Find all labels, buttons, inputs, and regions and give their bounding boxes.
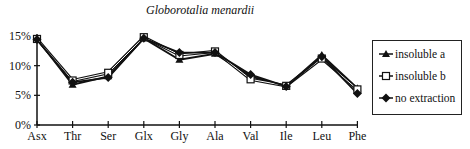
- x-tick-label: Thr: [64, 129, 81, 143]
- series-layer: [33, 34, 362, 98]
- x-tick-label: Leu: [312, 129, 331, 143]
- triangle-filled-icon: [379, 49, 393, 59]
- axes: 0%5%10%15%AsxThrSerGlxGlyAlaValIleLeuPhe: [9, 29, 366, 143]
- y-tick-label: 15%: [9, 29, 31, 43]
- square-open-icon: [379, 71, 393, 81]
- x-tick-label: Glx: [135, 129, 153, 143]
- x-tick-label: Gly: [170, 129, 188, 143]
- legend-item-insoluble-a: insoluble a: [379, 48, 445, 60]
- legend: insoluble a insoluble b no extraction: [372, 40, 462, 115]
- legend-label: no extraction: [395, 92, 455, 104]
- x-tick-label: Asx: [27, 129, 46, 143]
- legend-item-no-extraction: no extraction: [379, 92, 455, 104]
- y-tick-label: 10%: [9, 59, 31, 73]
- y-tick-label: 5%: [15, 88, 31, 102]
- legend-item-insoluble-b: insoluble b: [379, 70, 446, 82]
- legend-label: insoluble b: [395, 70, 446, 82]
- diamond-filled-icon: [379, 93, 393, 103]
- x-tick-label: Ala: [206, 129, 224, 143]
- legend-label: insoluble a: [395, 48, 445, 60]
- x-tick-label: Ile: [280, 129, 293, 143]
- x-tick-label: Val: [243, 129, 260, 143]
- x-tick-label: Ser: [100, 129, 116, 143]
- x-tick-label: Phe: [348, 129, 366, 143]
